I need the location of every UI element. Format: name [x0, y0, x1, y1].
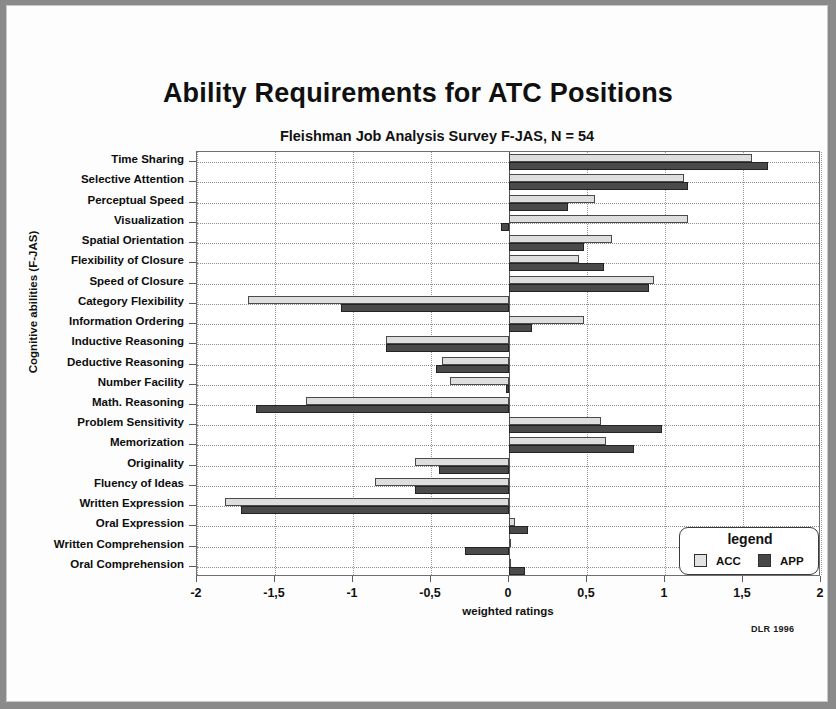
- bar-acc: [509, 559, 511, 567]
- bar-acc: [509, 255, 579, 263]
- y-axis-category-label: Math. Reasoning: [4, 396, 184, 408]
- bar-app: [341, 304, 509, 312]
- x-axis-tick: [742, 576, 743, 582]
- y-axis-tick: [189, 546, 196, 547]
- legend-label-acc: ACC: [716, 555, 741, 567]
- bar-app: [509, 445, 634, 453]
- y-axis-category-label: Written Expression: [4, 497, 184, 509]
- x-axis-tick: [586, 576, 587, 582]
- bar-acc: [442, 357, 509, 365]
- bar-acc: [248, 296, 509, 304]
- x-axis-tick-label: -1,5: [252, 586, 296, 600]
- y-axis-category-label: Flexibility of Closure: [4, 254, 184, 266]
- y-axis-tick: [189, 566, 196, 567]
- bar-app: [509, 203, 568, 211]
- y-axis-tick: [189, 505, 196, 506]
- x-gridline: [197, 152, 198, 575]
- bar-acc: [509, 518, 515, 526]
- bar-acc: [509, 154, 752, 162]
- y-axis-tick: [189, 485, 196, 486]
- bar-acc: [509, 539, 511, 547]
- y-axis-tick: [189, 424, 196, 425]
- x-axis-tick-label: 0,5: [564, 586, 608, 600]
- bar-acc: [386, 336, 509, 344]
- bar-app: [509, 162, 768, 170]
- x-axis-tick: [352, 576, 353, 582]
- x-gridline: [743, 152, 744, 575]
- bar-acc: [509, 437, 606, 445]
- bar-app: [465, 547, 509, 555]
- y-axis-category-label: Visualization: [4, 214, 184, 226]
- x-axis-tick-label: 1: [642, 586, 686, 600]
- y-axis-category-label: Memorization: [4, 436, 184, 448]
- y-axis-tick: [189, 283, 196, 284]
- y-axis-category-label: Speed of Closure: [4, 275, 184, 287]
- y-axis-tick: [189, 262, 196, 263]
- y-axis-tick: [189, 343, 196, 344]
- y-axis-category-label: Written Comprehension: [4, 538, 184, 550]
- legend-entry-acc: ACC: [694, 554, 741, 567]
- bar-app: [241, 506, 509, 514]
- y-axis-tick: [189, 384, 196, 385]
- bar-app: [509, 425, 662, 433]
- y-axis-tick: [189, 444, 196, 445]
- x-axis-title: weighted ratings: [196, 605, 820, 617]
- x-axis-tick-label: -2: [174, 586, 218, 600]
- y-axis-category-label: Inductive Reasoning: [4, 335, 184, 347]
- x-axis-tick: [664, 576, 665, 582]
- y-axis-category-label: Problem Sensitivity: [4, 416, 184, 428]
- y-gridline: [197, 425, 819, 426]
- y-axis-tick: [189, 364, 196, 365]
- y-axis-tick: [189, 242, 196, 243]
- x-gridline: [821, 152, 822, 575]
- credit-text: DLR 1996: [751, 624, 794, 634]
- bar-app: [509, 324, 532, 332]
- x-axis-tick: [508, 576, 509, 582]
- bar-app: [509, 263, 604, 271]
- page-title: Ability Requirements for ATC Positions: [7, 78, 829, 109]
- legend-swatch-acc-icon: [694, 554, 707, 567]
- y-axis-category-label: Category Flexibility: [4, 295, 184, 307]
- y-axis-category-label: Information Ordering: [4, 315, 184, 327]
- bar-app: [256, 405, 509, 413]
- y-axis-tick: [189, 161, 196, 162]
- x-axis-tick-label: -0,5: [408, 586, 452, 600]
- bar-app: [509, 526, 528, 534]
- bar-app: [386, 344, 509, 352]
- slide-canvas: Ability Requirements for ATC Positions F…: [6, 5, 828, 702]
- legend-swatch-app-icon: [758, 554, 771, 567]
- bar-app: [415, 486, 509, 494]
- y-axis-category-label: Originality: [4, 457, 184, 469]
- legend-label-app: APP: [780, 555, 804, 567]
- y-axis-tick: [189, 222, 196, 223]
- x-axis-tick: [430, 576, 431, 582]
- bar-app: [509, 182, 688, 190]
- bar-acc: [509, 316, 584, 324]
- y-axis-category-label: Spatial Orientation: [4, 234, 184, 246]
- x-axis-tick-label: 1,5: [720, 586, 764, 600]
- chart-subtitle: Fleishman Job Analysis Survey F-JAS, N =…: [167, 128, 707, 144]
- y-axis-category-label: Deductive Reasoning: [4, 356, 184, 368]
- bar-acc: [306, 397, 509, 405]
- bar-acc: [509, 174, 684, 182]
- bar-acc: [509, 195, 595, 203]
- x-axis-tick-label: 2: [798, 586, 836, 600]
- y-axis-tick: [189, 303, 196, 304]
- y-axis-tick: [189, 323, 196, 324]
- x-axis-tick-label: -1: [330, 586, 374, 600]
- y-gridline: [197, 263, 819, 264]
- bar-app: [501, 223, 509, 231]
- legend: legend ACC APP: [679, 527, 819, 575]
- y-axis-tick: [189, 525, 196, 526]
- y-axis-tick: [189, 465, 196, 466]
- bar-acc: [509, 235, 612, 243]
- y-gridline: [197, 243, 819, 244]
- y-gridline: [197, 284, 819, 285]
- y-axis-tick: [189, 181, 196, 182]
- bar-acc: [415, 458, 509, 466]
- bar-acc: [375, 478, 509, 486]
- bar-acc: [509, 417, 601, 425]
- bar-app: [509, 243, 584, 251]
- y-gridline: [197, 324, 819, 325]
- y-axis-category-label: Oral Expression: [4, 517, 184, 529]
